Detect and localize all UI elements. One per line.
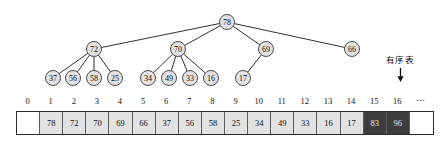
- array-index-label-14: 14: [340, 95, 363, 108]
- tree-node-level3-7: 16: [204, 71, 219, 86]
- tree-edge-root-3: [234, 24, 344, 48]
- tree-node-label: 66: [348, 45, 356, 54]
- array-index-label-8: 8: [201, 95, 224, 108]
- tree-edge-leaf-3: [98, 55, 110, 72]
- tree-edge-leaf-8: [248, 55, 262, 72]
- tree-edge-leaf-6: [181, 56, 187, 71]
- tree-node-label: 16: [207, 74, 215, 83]
- tree-edges: [59, 23, 345, 73]
- tree-node-level3-0: 37: [46, 71, 61, 86]
- array-index-label-17: ⋯: [409, 95, 432, 108]
- array-cell-9[interactable]: 25: [225, 112, 248, 134]
- tree-node-level3-1: 56: [66, 71, 81, 86]
- array-index-label-1: 1: [39, 95, 62, 108]
- tree-node-label: 72: [90, 45, 98, 54]
- array-cell-16[interactable]: 96: [387, 112, 410, 134]
- tree-nodes: 7872706966375658253449331617: [46, 15, 360, 86]
- sorted-list-annotation: 有序表: [372, 56, 428, 82]
- array-cell-4[interactable]: 69: [109, 112, 132, 134]
- array-index-label-5: 5: [132, 95, 155, 108]
- array-index-label-4: 4: [108, 95, 131, 108]
- array-cell-6[interactable]: 37: [156, 112, 179, 134]
- array-cell-14[interactable]: 17: [341, 112, 364, 134]
- array-cell-12[interactable]: 33: [294, 112, 317, 134]
- array-index-label-0: 0: [16, 95, 39, 108]
- array-index-label-6: 6: [155, 95, 178, 108]
- tree-node-level2-1: 70: [171, 42, 186, 57]
- array-cell-11[interactable]: 49: [271, 112, 294, 134]
- array-index-label-7: 7: [178, 95, 201, 108]
- array-cell-2[interactable]: 72: [63, 112, 86, 134]
- array-cell-8[interactable]: 58: [202, 112, 225, 134]
- array-index-label-12: 12: [293, 95, 316, 108]
- tree-node-label: 58: [90, 74, 98, 83]
- tree-edge-leaf-1: [77, 55, 89, 72]
- tree-edge-root-1: [185, 26, 221, 46]
- tree-node-level2-3: 66: [345, 42, 360, 57]
- array-index-label-11: 11: [270, 95, 293, 108]
- array-cell-13[interactable]: 16: [317, 112, 340, 134]
- array-index-label-16: 16: [386, 95, 409, 108]
- tree-node-root: 78: [220, 15, 235, 30]
- tree-node-label: 37: [49, 74, 57, 83]
- diagram-canvas: 7872706966375658253449331617 有序表 0123456…: [0, 0, 448, 141]
- tree-node-label: 34: [144, 74, 152, 83]
- array-cell-17[interactable]: [410, 112, 433, 134]
- tree-edge-leaf-5: [171, 56, 176, 71]
- array-index-label-13: 13: [316, 95, 339, 108]
- tree-node-level2-2: 69: [259, 42, 274, 57]
- array-cell-1[interactable]: 78: [40, 112, 63, 134]
- array-index-label-2: 2: [62, 95, 85, 108]
- array-cell-3[interactable]: 70: [86, 112, 109, 134]
- array-index-label-15: 15: [363, 95, 386, 108]
- tree-node-label: 70: [174, 45, 182, 54]
- array-index-label-3: 3: [85, 95, 108, 108]
- tree-node-level3-2: 58: [87, 71, 102, 86]
- tree-node-level3-4: 34: [141, 71, 156, 86]
- tree-node-level3-8: 17: [236, 71, 251, 86]
- tree-node-level3-6: 33: [183, 71, 198, 86]
- tree-node-level2-0: 72: [87, 42, 102, 57]
- array-index-label-9: 9: [224, 95, 247, 108]
- down-arrow-icon: [396, 68, 405, 82]
- tree-edge-leaf-4: [153, 54, 172, 73]
- array-cell-0[interactable]: [17, 112, 40, 134]
- array-cell-7[interactable]: 56: [179, 112, 202, 134]
- tree-node-label: 17: [239, 74, 247, 83]
- tree-diagram: 7872706966375658253449331617: [0, 0, 448, 100]
- tree-edge-root-2: [233, 26, 260, 44]
- array-row: 78727069663756582534493316178396: [16, 111, 434, 135]
- tree-node-label: 69: [262, 45, 270, 54]
- array-cell-5[interactable]: 66: [133, 112, 156, 134]
- tree-node-label: 33: [186, 74, 194, 83]
- tree-node-label: 78: [223, 18, 231, 27]
- array-cell-10[interactable]: 34: [248, 112, 271, 134]
- tree-node-label: 25: [111, 74, 119, 83]
- tree-node-level3-5: 49: [162, 71, 177, 86]
- array-index-row: 012345678910111213141516⋯: [16, 95, 432, 108]
- tree-node-label: 49: [165, 74, 173, 83]
- annotation-label: 有序表: [372, 56, 428, 65]
- tree-node-level3-3: 25: [108, 71, 123, 86]
- array-cell-15[interactable]: 83: [364, 112, 387, 134]
- array-index-label-10: 10: [247, 95, 270, 108]
- tree-node-label: 56: [69, 74, 77, 83]
